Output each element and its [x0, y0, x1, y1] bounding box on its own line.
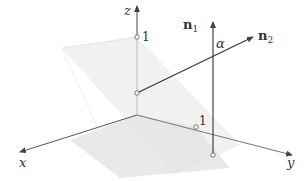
angle-alpha-label: α: [216, 36, 225, 51]
diagram-canvas: z 1 x y 1 n1 α n2: [0, 0, 307, 181]
n2-base-point: [135, 91, 139, 95]
n1-base-point: [211, 153, 215, 157]
y-axis-label: y: [286, 155, 295, 170]
y-unit-point: [194, 125, 198, 129]
n1-label: n1: [183, 17, 198, 34]
z-unit-label: 1: [142, 30, 150, 44]
n2-label: n2: [258, 28, 273, 45]
z-unit-point: [135, 35, 139, 39]
x-axis-label: x: [19, 155, 27, 170]
y-unit-label: 1: [199, 114, 207, 128]
z-axis-label: z: [123, 3, 131, 18]
